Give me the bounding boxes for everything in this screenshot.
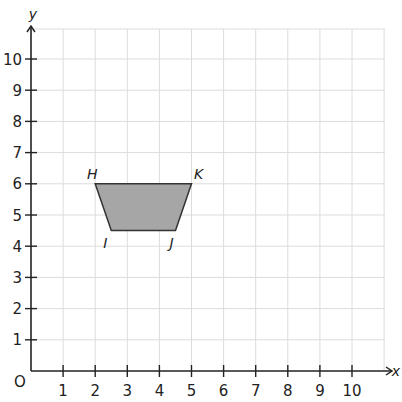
trapezium-shape: [95, 184, 191, 231]
x-tick-label: 2: [90, 382, 100, 400]
y-axis-label: y: [28, 6, 38, 22]
vertex-label-K: K: [194, 166, 205, 182]
x-tick-label: 9: [315, 382, 325, 400]
y-tick-label: 5: [12, 207, 22, 225]
y-tick-label: 7: [12, 144, 22, 162]
vertex-label-J: J: [166, 235, 173, 251]
coordinate-plane: 1234567891012345678910Oxy HIJK: [0, 0, 402, 402]
axes: [27, 26, 392, 375]
y-tick-label: 1: [12, 331, 22, 349]
tick-labels: 1234567891012345678910Oxy: [3, 6, 401, 400]
x-tick-label: 5: [187, 382, 197, 400]
y-tick-label: 8: [12, 113, 22, 131]
x-tick-label: 1: [58, 382, 68, 400]
x-tick-label: 3: [123, 382, 133, 400]
trapezium-HIJK: [95, 184, 191, 231]
y-tick-label: 4: [12, 238, 22, 256]
y-tick-label: 6: [12, 175, 22, 193]
x-tick-label: 8: [283, 382, 293, 400]
x-tick-label: 6: [219, 382, 229, 400]
coordinate-plane-figure: 1234567891012345678910Oxy HIJK: [0, 0, 402, 402]
vertex-label-H: H: [87, 166, 98, 182]
y-tick-label: 10: [3, 51, 22, 69]
y-tick-label: 3: [12, 269, 22, 287]
vertex-label-I: I: [103, 235, 107, 251]
x-axis-label: x: [391, 363, 401, 379]
y-tick-label: 9: [12, 82, 22, 100]
y-tick-label: 2: [12, 300, 22, 318]
x-tick-label: 7: [251, 382, 261, 400]
x-tick-label: 10: [342, 382, 361, 400]
x-tick-label: 4: [155, 382, 165, 400]
grid-lines: [31, 29, 385, 371]
origin-label: O: [14, 373, 26, 391]
